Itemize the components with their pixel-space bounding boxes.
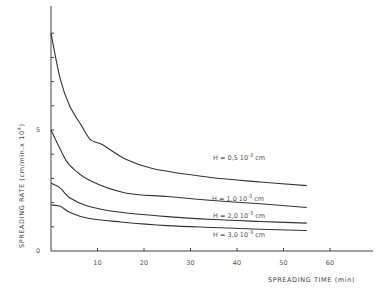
y-tick-label: 0 bbox=[36, 247, 40, 255]
x-tick-label: 60 bbox=[326, 259, 334, 267]
y-tick-label: 5 bbox=[36, 126, 40, 134]
x-tick-label: 20 bbox=[140, 259, 148, 267]
svg-text:SPREADING RATE (cm/min.x 10: SPREADING RATE (cm/min.x 104) bbox=[16, 123, 26, 248]
series-curve bbox=[51, 183, 307, 223]
x-tick-label: 40 bbox=[233, 259, 241, 267]
x-tick-label: 30 bbox=[186, 259, 194, 267]
series-curve bbox=[51, 33, 307, 185]
x-tick-label: 50 bbox=[279, 259, 287, 267]
spreading-rate-chart: 102030405060 05 H = 0,5 10-3 cmH = 1,0 1… bbox=[0, 0, 387, 299]
series-curve bbox=[51, 130, 307, 207]
axes bbox=[51, 6, 373, 251]
y-axis-label: SPREADING RATE (cm/min.x 104) bbox=[16, 123, 26, 248]
curves bbox=[51, 33, 307, 230]
x-axis-label: SPREADING TIME (min) bbox=[268, 276, 355, 284]
series-label: H = 2,0 10-3 cm bbox=[213, 210, 265, 220]
x-tick-label: 10 bbox=[93, 259, 101, 267]
series-label: H = 0,5 10-3 cm bbox=[213, 152, 265, 162]
series-label: H = 1,0 10-3 cm bbox=[212, 193, 264, 203]
series-labels: H = 0,5 10-3 cmH = 1,0 10-3 cmH = 2,0 10… bbox=[212, 152, 265, 239]
series-label: H = 3,0 10-3 cm bbox=[213, 229, 265, 239]
